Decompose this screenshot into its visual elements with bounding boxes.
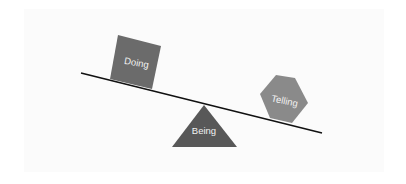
seesaw-diagram: Being Doing Telling: [0, 0, 406, 184]
being-label: Being: [192, 125, 216, 136]
being-fulcrum: Being: [172, 105, 237, 147]
telling-block: Telling: [260, 75, 308, 123]
doing-block: Doing: [110, 35, 161, 89]
diagram-svg: Being Doing Telling: [0, 0, 406, 184]
